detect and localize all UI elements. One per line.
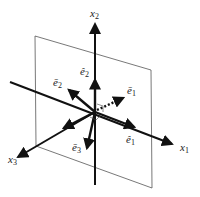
e-bar-3-label: ē3 <box>72 142 81 155</box>
e-hat-2-label: ê2 <box>80 66 89 79</box>
e-hat-1-label: ê1 <box>126 134 135 147</box>
e-bar-1-vector <box>97 98 123 110</box>
diagram-canvas <box>0 0 200 197</box>
e-hat-3-vector <box>64 112 95 128</box>
e-hat-1-vector <box>95 112 134 127</box>
x3-label: x3 <box>8 154 17 167</box>
e-bar-2-label: ē2 <box>53 77 62 90</box>
e-bar-1-label: ē1 <box>127 85 136 98</box>
basis-diagram: x2 x1 x3 ê2 ē2 ē1 ê1 ē3 <box>0 0 200 197</box>
x2-label: x2 <box>90 8 99 21</box>
x1-label: x1 <box>180 142 189 155</box>
